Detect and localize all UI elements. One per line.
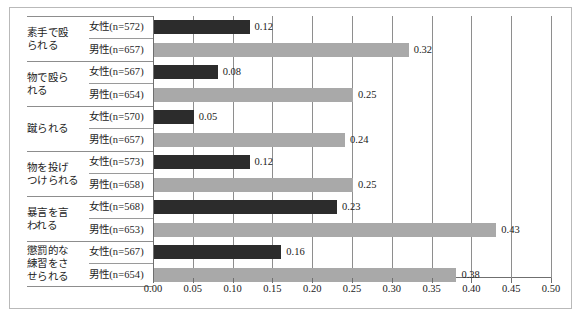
bar-male: [154, 178, 353, 192]
category-label-text: 暴言を言われる: [27, 206, 68, 232]
x-tick-label: 0.25: [332, 283, 372, 294]
category-label: 物を投げつけられる: [27, 151, 89, 196]
bar-value-label: 0.16: [286, 245, 304, 259]
category-label-text: 物で殴られる: [27, 71, 68, 97]
bar-male: [154, 43, 409, 57]
x-tick-label: 0.00: [133, 283, 173, 294]
gridline: [551, 16, 552, 278]
plot-area: 0.120.320.080.250.050.240.120.250.230.43…: [153, 16, 552, 278]
bar-value-label: 0.08: [223, 65, 241, 79]
category-label: 蹴られる: [27, 106, 89, 151]
series-label-male: 男性(n=657): [89, 129, 153, 152]
group-separator: [27, 61, 153, 62]
x-tick-label: 0.40: [451, 283, 491, 294]
bar-male: [154, 133, 345, 147]
x-tick-label: 0.15: [252, 283, 292, 294]
series-label-male: 男性(n=653): [89, 219, 153, 242]
x-tick-label: 0.30: [372, 283, 412, 294]
bar-value-label: 0.23: [342, 200, 360, 214]
x-tick-label: 0.35: [412, 283, 452, 294]
group-separator: [27, 196, 153, 197]
gridline: [471, 16, 472, 278]
bar-value-label: 0.43: [501, 223, 519, 237]
series-label-male: 男性(n=658): [89, 174, 153, 197]
bar-male: [154, 223, 496, 237]
category-label: 暴言を言われる: [27, 196, 89, 241]
bar-value-label: 0.05: [199, 110, 217, 124]
series-label-text: 男性(n=653): [89, 224, 144, 236]
series-label-male: 男性(n=657): [89, 39, 153, 62]
bar-value-label: 0.24: [350, 133, 368, 147]
x-tick-label: 0.10: [213, 283, 253, 294]
horizontal-bar-chart: 素手で殴られる物で殴られる蹴られる物を投げつけられる暴言を言われる懲罰的な練習を…: [10, 8, 573, 310]
x-tick-label: 0.05: [173, 283, 213, 294]
x-tick-label: 0.50: [531, 283, 571, 294]
category-label-text: 物を投げつけられる: [27, 161, 79, 187]
series-label-text: 男性(n=657): [89, 44, 144, 56]
bar-male: [154, 88, 353, 102]
category-label: 懲罰的な練習をさせられる: [27, 241, 89, 286]
series-label-text: 男性(n=657): [89, 134, 144, 146]
bar-female: [154, 65, 218, 79]
group-separator: [27, 151, 153, 152]
x-tick-label: 0.20: [292, 283, 332, 294]
category-label: 素手で殴られる: [27, 16, 89, 61]
series-label-text: 女性(n=570): [89, 111, 144, 123]
category-label-text: 懲罰的な練習をさせられる: [27, 244, 68, 283]
chart-frame: 素手で殴られる物で殴られる蹴られる物を投げつけられる暴言を言われる懲罰的な練習を…: [9, 7, 572, 309]
bar-value-label: 0.25: [358, 178, 376, 192]
series-label-female: 女性(n=573): [89, 151, 153, 174]
bar-female: [154, 155, 250, 169]
series-label-text: 男性(n=654): [89, 89, 144, 101]
bar-value-label: 0.12: [255, 20, 273, 34]
bar-female: [154, 200, 337, 214]
series-label-text: 女性(n=567): [89, 246, 144, 258]
bar-female: [154, 110, 194, 124]
x-tick-label: 0.45: [491, 283, 531, 294]
series-label-text: 女性(n=573): [89, 156, 144, 168]
bar-value-label: 0.32: [414, 43, 432, 57]
gridline: [511, 16, 512, 278]
series-label-female: 女性(n=567): [89, 61, 153, 84]
series-label-female: 女性(n=570): [89, 106, 153, 129]
bar-male: [154, 268, 456, 282]
series-label-female: 女性(n=572): [89, 16, 153, 39]
bar-value-label: 0.12: [255, 155, 273, 169]
series-label-text: 男性(n=654): [89, 269, 144, 281]
series-label-text: 女性(n=567): [89, 66, 144, 78]
bar-value-label: 0.25: [358, 88, 376, 102]
group-separator: [27, 241, 153, 242]
category-label: 物で殴られる: [27, 61, 89, 106]
series-label-female: 女性(n=567): [89, 241, 153, 264]
category-label-text: 素手で殴られる: [27, 26, 68, 52]
series-label-male: 男性(n=654): [89, 84, 153, 107]
group-separator: [27, 16, 153, 17]
series-label-text: 男性(n=658): [89, 179, 144, 191]
bar-female: [154, 245, 281, 259]
bar-female: [154, 20, 250, 34]
series-label-text: 女性(n=572): [89, 21, 144, 33]
category-label-text: 蹴られる: [27, 122, 68, 135]
series-label-female: 女性(n=568): [89, 196, 153, 219]
group-separator: [27, 106, 153, 107]
series-label-text: 女性(n=568): [89, 201, 144, 213]
